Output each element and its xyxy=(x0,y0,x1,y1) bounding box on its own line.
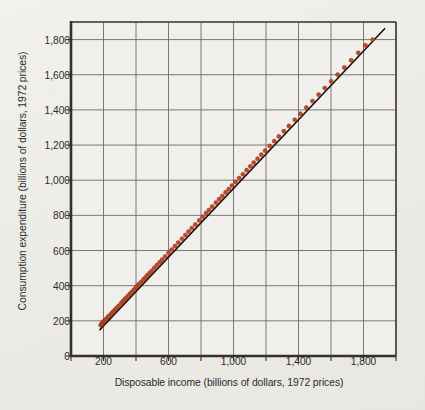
consumption-function-scatter-chart: Consumption expenditure (billions of dol… xyxy=(0,0,425,410)
plot-area xyxy=(0,0,425,410)
